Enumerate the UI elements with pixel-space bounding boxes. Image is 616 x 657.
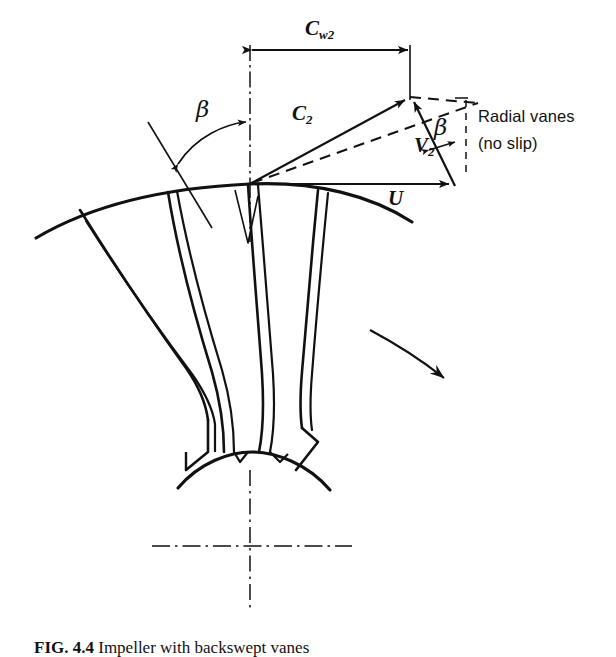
radial-vanes-dashed-reference xyxy=(252,97,478,183)
cw2-dimension xyxy=(252,45,410,100)
label-radial-vanes-line1: Radial vanes xyxy=(478,108,575,125)
rotation-direction-arrow xyxy=(370,330,444,378)
impeller-blade-2 xyxy=(168,191,234,452)
figure-caption: FIG. 4.4 Impeller with backswept vanes xyxy=(34,639,309,656)
vector-c2 xyxy=(250,100,405,184)
label-beta-left: β xyxy=(196,98,209,121)
figure-caption-text: Impeller with backswept vanes xyxy=(98,638,309,657)
label-c2: C2 xyxy=(292,103,313,126)
impeller-blade-1 xyxy=(80,210,215,470)
label-u: U xyxy=(388,188,403,209)
figure-caption-number: FIG. 4.4 xyxy=(34,638,94,657)
label-beta-right: β xyxy=(434,116,447,139)
label-v2: V2 xyxy=(414,135,435,158)
beta-angle-arc-left xyxy=(178,122,246,164)
label-radial-vanes-line2: (no slip) xyxy=(478,135,538,152)
label-cw2: Cw2 xyxy=(305,18,334,41)
blade-tip-wedge xyxy=(235,190,258,243)
impeller-blade-4 xyxy=(296,190,328,470)
